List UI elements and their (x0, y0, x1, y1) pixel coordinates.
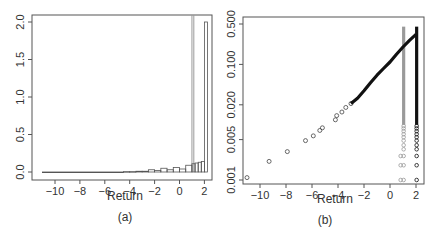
y-tick-label: 1.0 (14, 89, 26, 104)
panel-a-xlabel: Return (107, 189, 143, 203)
black-column-point (415, 163, 419, 167)
y-tick-label: 0.0 (14, 164, 26, 179)
panel-a-frame (32, 15, 212, 180)
figure-canvas: 0.00.51.01.52.0−10−8−6−4−202 0.0010.0050… (0, 0, 436, 242)
gray-column-point (402, 143, 406, 147)
tail-point (245, 176, 249, 180)
x-tick-label: −2 (148, 185, 161, 197)
black-column-point (415, 178, 419, 182)
y-tick-label: 0.005 (225, 126, 237, 154)
tail-point (285, 150, 289, 154)
tail-point (335, 114, 339, 118)
histogram-bar (173, 168, 179, 173)
histogram-bar (155, 171, 161, 173)
y-tick-label: 0.5 (14, 127, 26, 142)
y-tick-label: 0.020 (225, 91, 237, 119)
panel-b-log-scatter: 0.0010.0050.0200.1000.500−10−8−6−4−202 (225, 10, 424, 201)
panel-a-caption: (a) (118, 210, 133, 224)
histogram-bar (195, 163, 198, 172)
x-tick-label: −10 (46, 185, 65, 197)
dense-tail-curve (351, 34, 416, 103)
tail-point (311, 134, 315, 138)
tail-point (344, 105, 348, 109)
histogram-bar (142, 171, 148, 172)
black-column-point (415, 154, 419, 158)
x-tick-label: −8 (74, 185, 87, 197)
tail-point (340, 110, 344, 114)
tail-point (333, 118, 337, 122)
tail-point (267, 159, 271, 163)
tail-point (304, 139, 308, 143)
panel-b-caption: (b) (318, 213, 333, 227)
y-tick-label: 0.001 (225, 166, 237, 194)
x-tick-label: −8 (280, 189, 293, 201)
x-tick-label: −2 (358, 189, 371, 201)
x-tick-label: 2 (201, 185, 207, 197)
histogram-bar (204, 22, 207, 172)
y-tick-label: 0.100 (225, 51, 237, 79)
tail-point (320, 126, 324, 130)
black-column-point (415, 143, 419, 147)
y-tick-label: 0.500 (225, 10, 237, 38)
histogram-bar (148, 170, 154, 172)
histogram-bar (201, 162, 204, 173)
figure: 0.00.51.01.52.0−10−8−6−4−202 0.0010.0050… (0, 0, 436, 242)
histogram-bar (161, 168, 167, 172)
x-tick-label: 0 (176, 185, 182, 197)
panel-a-histogram: 0.00.51.01.52.0−10−8−6−4−202 (14, 14, 212, 197)
y-tick-label: 1.5 (14, 52, 26, 67)
histogram-bar (123, 172, 129, 173)
gray-column-point (402, 147, 406, 151)
histogram-bar (186, 165, 192, 172)
histogram-bar (167, 170, 173, 172)
histogram-bar (180, 169, 186, 172)
histogram-bar (130, 172, 136, 173)
histogram-bar (43, 172, 124, 173)
x-tick-label: −10 (251, 189, 270, 201)
histogram-bar (198, 162, 201, 172)
histogram-bar (136, 171, 142, 172)
x-tick-label: 2 (413, 189, 419, 201)
panel-b-frame (243, 17, 424, 184)
panel-b-xlabel: Return (317, 192, 353, 206)
y-tick-label: 2.0 (14, 14, 26, 29)
black-column-point (415, 147, 419, 151)
x-tick-label: 0 (387, 189, 393, 201)
